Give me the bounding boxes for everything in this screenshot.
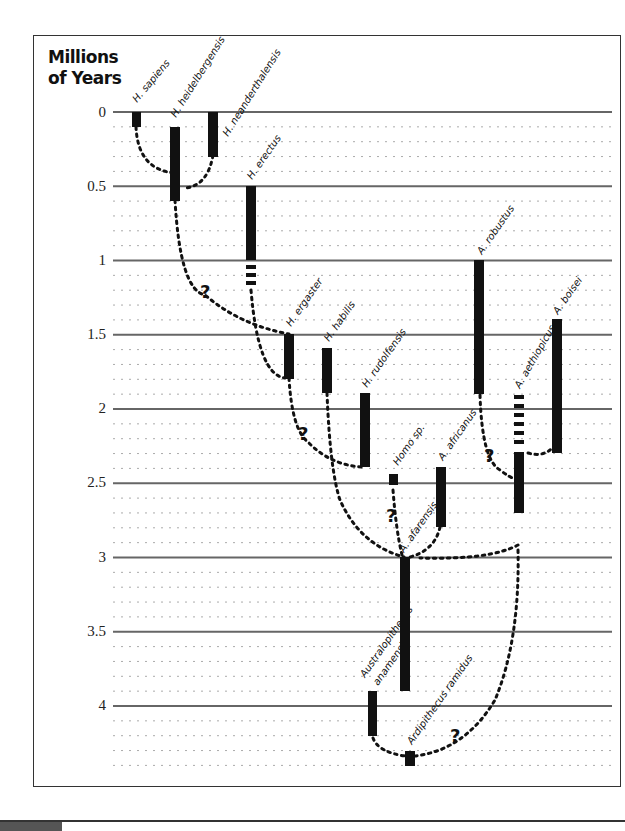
bar-a-aethiopicus — [514, 452, 524, 513]
tick-3: 3 — [99, 549, 107, 565]
label-h-habilis: H. habilis — [322, 299, 358, 343]
label-a-boisei: A. boisei — [550, 275, 584, 317]
label-a-afarensis: A. afarensis — [396, 500, 439, 555]
tick-2: 2 — [99, 400, 107, 416]
bar-h-erectus-uncertain — [246, 265, 256, 285]
label-h-heidelbergensis: H. heidelbergensis — [168, 34, 227, 119]
label-homo-sp: Homo sp. — [391, 422, 427, 467]
bar-h-habilis — [322, 348, 332, 393]
question-mark-icon: ? — [484, 445, 494, 466]
bar-homo-sp — [389, 474, 398, 485]
question-mark-icon: ? — [298, 423, 308, 444]
tick-3-5: 3.5 — [87, 623, 106, 639]
question-mark-icon: ? — [386, 505, 396, 526]
bar-a-aethiopicus-uncertain — [514, 395, 524, 444]
label-h-neanderthalensis: H. neanderthalensis — [220, 47, 282, 138]
label-h-ergaster: H. ergaster — [284, 275, 326, 328]
label-h-sapiens: H. sapiens — [130, 57, 172, 104]
bar-ardipithecus-ramidus — [405, 751, 415, 766]
tick-1: 1 — [99, 252, 107, 268]
bar-a-boisei — [552, 319, 562, 453]
y-axis-ticks: 0 0.5 1 1.5 2 2.5 3 3.5 4 — [87, 104, 106, 713]
label-h-rudolfensis: H. rudolfensis — [360, 326, 408, 389]
question-mark-icon: ? — [200, 281, 210, 302]
species-labels: H. sapiens H. heidelbergensis H. neander… — [130, 34, 584, 747]
tick-4: 4 — [99, 697, 107, 713]
label-a-robustus: A. robustus — [474, 203, 516, 257]
bar-a-anamensis — [368, 691, 377, 736]
tick-2-5: 2.5 — [87, 474, 106, 490]
tick-1-5: 1.5 — [87, 326, 106, 342]
label-ardipithecus-ramidus: Ardipithecus ramidus — [404, 653, 475, 747]
question-mark-icon: ? — [450, 725, 460, 746]
bar-h-neanderthalensis — [208, 112, 218, 157]
tick-0-5: 0.5 — [87, 178, 106, 194]
bar-a-africanus — [436, 467, 446, 527]
bar-h-ergaster — [284, 334, 294, 379]
bar-h-sapiens — [132, 112, 141, 127]
tick-0: 0 — [99, 104, 107, 120]
footer-block — [0, 822, 62, 831]
label-a-aethiopicus: A. aethiopicus — [512, 323, 558, 391]
bar-h-heidelbergensis — [170, 127, 180, 201]
page-footer-rule — [0, 820, 625, 831]
label-a-africanus: A. africanus — [435, 407, 479, 463]
bar-a-robustus — [474, 260, 484, 394]
bar-h-rudolfensis — [360, 393, 370, 467]
bar-h-erectus — [246, 186, 256, 260]
